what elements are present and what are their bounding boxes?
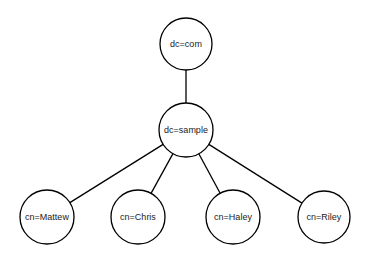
- node-label: cn=Chris: [120, 212, 156, 222]
- node-label: cn=Riley: [307, 212, 342, 222]
- node-com: dc=com: [160, 18, 212, 70]
- node-haley: cn=Haley: [206, 190, 260, 244]
- edge-sample-chris: [151, 154, 173, 194]
- node-label: dc=com: [170, 39, 202, 49]
- node-sample: dc=sample: [159, 103, 213, 157]
- node-mattew: cn=Mattew: [20, 190, 74, 244]
- edge-sample-haley: [199, 154, 220, 193]
- node-label: dc=sample: [164, 125, 208, 135]
- node-riley: cn=Riley: [298, 191, 350, 243]
- node-label: cn=Haley: [214, 212, 252, 222]
- nodes: dc=comdc=samplecn=Mattewcn=Chriscn=Haley…: [20, 18, 350, 244]
- ldap-tree-diagram: dc=comdc=samplecn=Mattewcn=Chriscn=Haley…: [0, 0, 368, 258]
- node-label: cn=Mattew: [25, 212, 69, 222]
- node-chris: cn=Chris: [111, 190, 165, 244]
